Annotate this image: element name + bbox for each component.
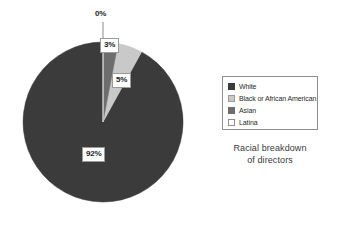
data-label-latina: 0%: [95, 10, 106, 18]
chart-caption-line-2: of directors: [218, 154, 322, 166]
legend-swatch-latina-icon: [228, 119, 235, 126]
legend-item-asian[interactable]: Asian: [228, 105, 317, 116]
data-label-black-or-african-american: 5%: [112, 73, 131, 88]
legend-item-latina[interactable]: Latina: [228, 117, 317, 128]
chart-caption-line-1: Racial breakdown: [218, 142, 322, 154]
data-label-white: 92%: [82, 147, 105, 162]
legend-label-asian: Asian: [239, 107, 256, 114]
legend-swatch-asian-icon: [228, 107, 235, 114]
pie-chart-screenshot: 0% 3% 5% 92% White Black or African Amer…: [0, 0, 340, 228]
chart-legend: White Black or African American Asian La…: [222, 76, 318, 130]
data-label-asian: 3%: [100, 38, 119, 53]
pie-chart-svg: [0, 0, 215, 228]
legend-swatch-white-icon: [228, 83, 235, 90]
legend-swatch-black-or-african-american-icon: [228, 95, 235, 102]
legend-label-white: White: [239, 83, 256, 90]
legend-item-black-or-african-american[interactable]: Black or African American: [228, 93, 317, 104]
legend-label-latina: Latina: [239, 119, 257, 126]
legend-item-white[interactable]: White: [228, 81, 317, 92]
pie-chart: 0% 3% 5% 92%: [0, 0, 215, 228]
chart-caption: Racial breakdown of directors: [218, 142, 322, 166]
legend-label-black-or-african-american: Black or African American: [239, 95, 316, 102]
